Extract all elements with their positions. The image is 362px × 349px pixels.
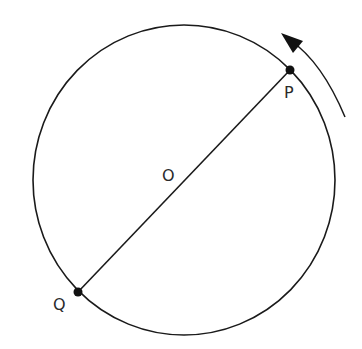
arrowhead-icon	[281, 33, 303, 53]
label-p: P	[284, 83, 294, 102]
diameter-pq	[78, 70, 290, 292]
label-q: Q	[53, 295, 66, 314]
label-o: O	[162, 166, 175, 185]
circle-diagram: O P Q	[0, 0, 362, 349]
point-q	[74, 288, 83, 297]
point-p	[286, 66, 295, 75]
